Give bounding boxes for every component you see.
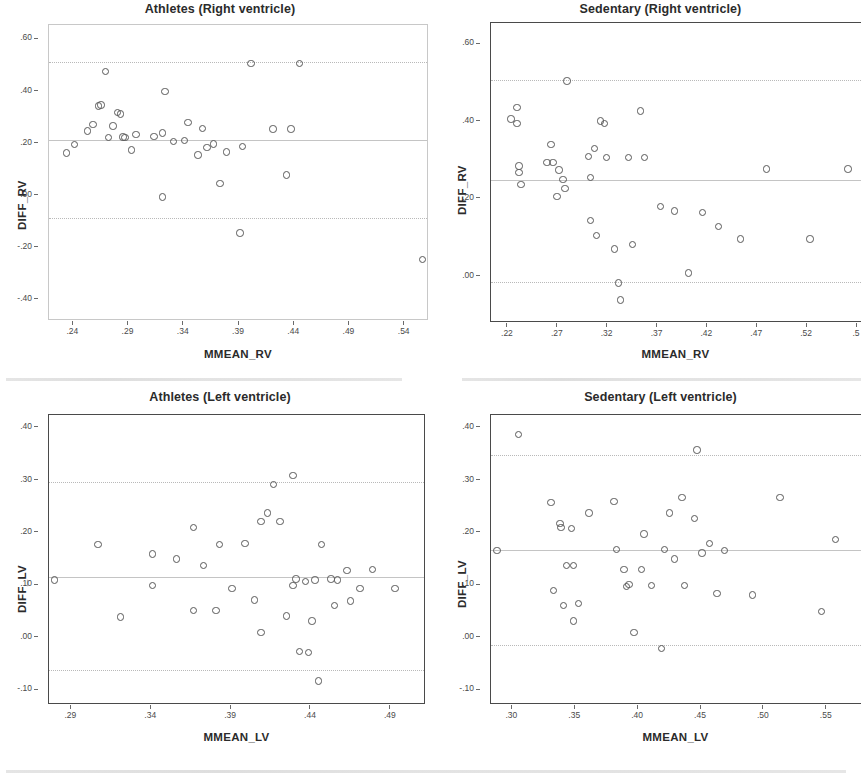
data-point [210,140,217,147]
data-point [264,509,271,516]
tick-mark [756,323,757,327]
tick-mark [230,705,231,709]
x-axis-tick-label: .49 [384,710,396,720]
x-axis-tick-label: .29 [64,710,76,720]
data-point [283,612,290,619]
x-axis-tick: .45 [685,705,715,720]
tick-mark [762,705,763,709]
x-axis-tick-label: .5 [852,328,859,338]
data-point [648,582,655,589]
data-point [693,446,700,453]
data-point [570,617,577,624]
data-point [276,518,283,525]
x-axis-tick: .29 [55,705,85,720]
data-point [603,154,610,161]
chart-title: Sedentary (Left ventricle) [470,390,851,404]
x-axis-tick: .42 [691,323,721,338]
x-axis-tick-label: .29 [122,326,134,336]
y-axis-title: DIFF_LV [16,565,28,613]
tick-mark [182,321,183,325]
x-axis-tick: .32 [592,323,622,338]
y-axis-tick: -.20 [4,241,38,251]
x-axis-tick: .27 [542,323,572,338]
data-point [305,649,312,656]
data-point [257,629,264,636]
data-point [63,149,70,156]
y-axis-tick: .40 [4,85,38,95]
x-axis-tick-label: .47 [750,328,762,338]
data-point [553,193,560,200]
data-point [97,101,104,108]
x-axis-title: MMEAN_RV [490,348,861,360]
tick-mark [389,705,390,709]
tick-mark [403,321,404,325]
x-axis-tick-label: .42 [700,328,712,338]
y-axis-tick-label: -.40 [17,293,32,303]
data-point [641,154,648,161]
data-point [661,546,668,553]
data-point [713,590,720,597]
y-axis-tick-label: .40 [20,85,32,95]
data-point [570,562,577,569]
data-point [638,566,645,573]
x-axis-tick: .44 [295,705,325,720]
data-point [200,562,207,569]
chart-panel-1: Athletes (Right ventricle).24.29.34.39.4… [0,0,440,388]
x-axis-tick-label: .54 [398,326,410,336]
tick-mark [476,636,480,637]
tick-mark [476,197,480,198]
data-point [587,217,594,224]
x-axis-tick-label: .44 [287,326,299,336]
data-point [629,241,636,248]
tick-mark [825,705,826,709]
data-point [270,481,277,488]
y-axis-tick: -.10 [446,683,480,693]
data-point [173,555,180,562]
plot-area [48,24,428,320]
y-axis-tick: .00 [446,270,480,280]
y-axis-tick-label: .20 [20,137,32,147]
x-axis-tick: .52 [791,323,821,338]
x-axis-tick-label: .39 [224,710,236,720]
tick-mark [238,321,239,325]
data-point [593,232,600,239]
data-point [585,153,592,160]
data-point [818,608,825,615]
data-point [568,525,575,532]
data-point [671,555,678,562]
data-point [190,607,197,614]
x-axis-tick: .47 [741,323,771,338]
data-point [620,566,627,573]
data-point [613,546,620,553]
upper-limit-of-agreement-line [49,62,427,63]
data-point [563,562,570,569]
data-point [283,171,290,178]
data-point [247,60,254,67]
y-axis-tick: -.10 [4,683,38,693]
x-axis-tick: .22 [492,323,522,338]
data-point [269,125,276,132]
data-point [685,269,692,276]
x-axis-tick: .24 [57,321,87,336]
data-point [547,141,554,148]
x-axis-tick-label: .39 [232,326,244,336]
data-point [691,515,698,522]
plot-area [490,414,861,704]
data-point [671,207,678,214]
data-point [239,143,246,150]
y-axis-tick-label: .00 [20,631,32,641]
data-point [150,133,157,140]
figure-panel-grid: Athletes (Right ventricle).24.29.34.39.4… [0,0,861,777]
mean-difference-line [491,180,861,181]
y-axis-tick: .60 [446,37,480,47]
data-point [159,193,166,200]
y-axis-tick: .00 [4,631,38,641]
chart-panel-3: Athletes (Left ventricle).29.34.39.44.49… [0,388,440,777]
data-point [666,509,673,516]
chart-panel-2: Sedentary (Right ventricle).22.27.32.37.… [440,0,861,388]
data-point [212,607,219,614]
data-point [311,576,318,583]
lower-limit-of-agreement-line [49,670,424,671]
tick-mark [34,426,38,427]
tick-mark [34,38,38,39]
